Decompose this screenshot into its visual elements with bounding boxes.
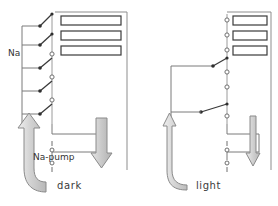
caption-dark: dark bbox=[0, 180, 139, 191]
switch-contact-open bbox=[50, 75, 54, 79]
switch-contact-closed bbox=[50, 12, 53, 15]
switch-pivot bbox=[38, 24, 42, 28]
switch-contact-closed bbox=[50, 32, 53, 35]
switch-pivot bbox=[38, 43, 42, 47]
switch-contact-open bbox=[225, 70, 229, 74]
panel-light: Na Na-pump light bbox=[139, 0, 278, 206]
pump-contact-lower bbox=[225, 161, 229, 165]
efflux-arrow-light bbox=[246, 116, 260, 166]
switch-1-closed-dark[interactable] bbox=[38, 12, 53, 27]
switch-leads-dark bbox=[22, 26, 40, 114]
channel-rect bbox=[61, 16, 121, 25]
switch-2-closed-dark[interactable] bbox=[38, 32, 53, 46]
panel-dark: Na Na-pump dark bbox=[0, 0, 139, 206]
switch-contact-open bbox=[225, 33, 229, 37]
figure-root: Na Na-pump dark bbox=[0, 0, 278, 206]
channel-group-light bbox=[233, 16, 267, 55]
channel-rect bbox=[233, 16, 267, 25]
channel-rect bbox=[61, 46, 121, 55]
switch-contact-open bbox=[50, 52, 54, 56]
channel-rect bbox=[61, 31, 121, 40]
switch-contact-open bbox=[225, 18, 229, 22]
switch-pivot bbox=[38, 112, 42, 116]
pump-label-dark: Na-pump bbox=[33, 152, 74, 162]
switch-5-open-light[interactable] bbox=[225, 70, 229, 74]
switch-7-closed-light[interactable] bbox=[199, 102, 229, 118]
switch-1-open-light[interactable] bbox=[225, 18, 229, 22]
influx-arrow-light bbox=[163, 113, 187, 190]
pump-contact-upper bbox=[225, 148, 229, 152]
switch-contact-closed bbox=[225, 102, 228, 105]
channel-rect bbox=[233, 31, 267, 40]
switch-pivot bbox=[38, 66, 42, 70]
switch-2-open-light[interactable] bbox=[225, 33, 229, 37]
switch-contact-open bbox=[225, 85, 229, 89]
switch-6-open-light[interactable] bbox=[225, 85, 229, 89]
switch-contact-open bbox=[225, 114, 229, 118]
channel-rect bbox=[233, 46, 267, 55]
panel-dark-drawing bbox=[0, 0, 139, 206]
switch-pivot bbox=[38, 89, 42, 93]
switch-pivot bbox=[211, 64, 215, 68]
channel-group-dark bbox=[61, 16, 121, 55]
caption-light: light bbox=[139, 180, 278, 191]
switch-contact-closed bbox=[225, 56, 228, 59]
switch-3-open-light[interactable] bbox=[225, 48, 229, 52]
switch-4-closed-light[interactable] bbox=[211, 56, 228, 67]
efflux-arrow-dark bbox=[91, 118, 112, 168]
panel-light-drawing bbox=[139, 0, 278, 206]
switch-contact-open bbox=[50, 98, 54, 102]
switch-contact-open bbox=[225, 48, 229, 52]
ion-label-na-dark: Na bbox=[8, 48, 20, 58]
